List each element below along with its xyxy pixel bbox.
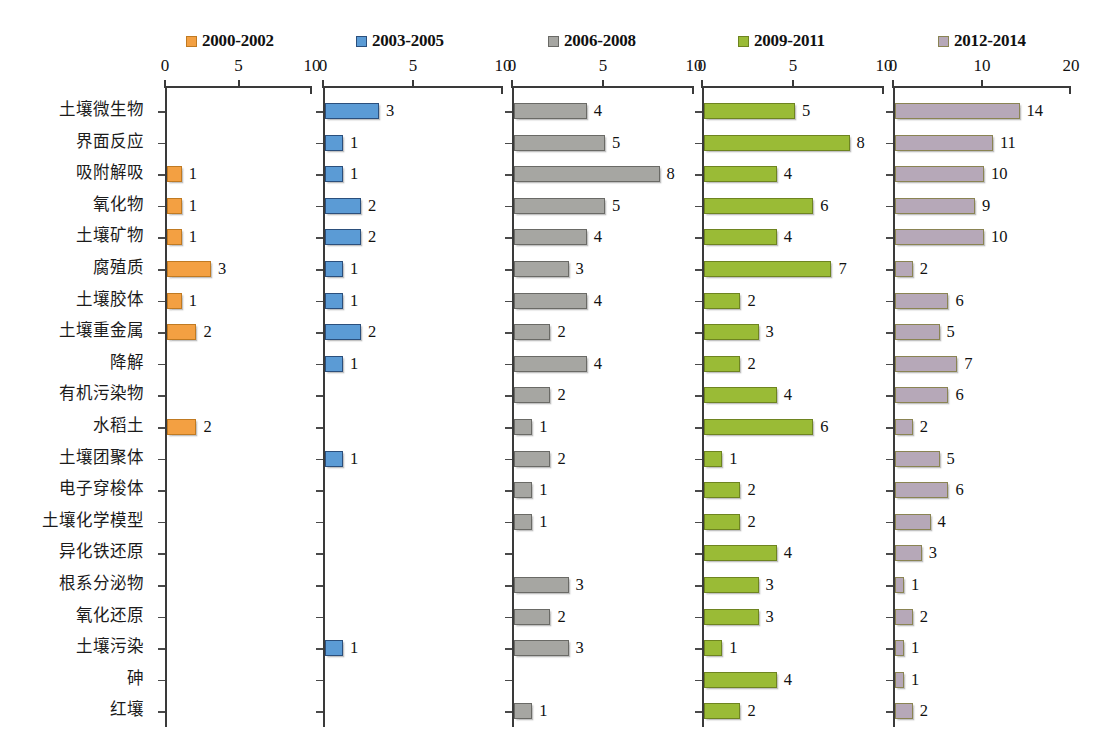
bar[interactable] — [704, 293, 740, 309]
bar-row: 2 — [704, 512, 886, 532]
bar[interactable] — [167, 261, 211, 277]
y-axis-tick — [505, 301, 512, 303]
bar[interactable] — [704, 577, 759, 593]
bar[interactable] — [704, 609, 759, 625]
legend-label: 2003-2005 — [372, 31, 444, 51]
bar[interactable] — [704, 135, 850, 151]
bar[interactable] — [167, 166, 182, 182]
bar[interactable] — [895, 545, 922, 561]
bar[interactable] — [325, 135, 343, 151]
bar[interactable] — [704, 672, 777, 688]
bar[interactable] — [704, 640, 722, 656]
bar[interactable] — [325, 198, 361, 214]
legend-item-2012-2014[interactable]: 2012-2014 — [938, 28, 1026, 54]
bar[interactable] — [895, 640, 904, 656]
bar[interactable] — [325, 103, 379, 119]
bar[interactable] — [895, 419, 913, 435]
bar[interactable] — [704, 545, 777, 561]
bar[interactable] — [704, 356, 740, 372]
bar[interactable] — [514, 577, 569, 593]
legend-item-2000-2002[interactable]: 2000-2002 — [186, 28, 274, 54]
bar[interactable] — [704, 703, 740, 719]
legend-item-2009-2011[interactable]: 2009-2011 — [738, 28, 825, 54]
y-axis-tick — [886, 301, 893, 303]
bar[interactable] — [514, 451, 550, 467]
bar[interactable] — [704, 229, 777, 245]
bar[interactable] — [895, 293, 948, 309]
bar-row: 4 — [514, 354, 696, 374]
bar[interactable] — [895, 482, 948, 498]
bar[interactable] — [895, 577, 904, 593]
bar[interactable] — [514, 482, 532, 498]
bar[interactable] — [167, 198, 182, 214]
bar-value-label: 2 — [747, 701, 755, 721]
bar[interactable] — [895, 703, 913, 719]
bar[interactable] — [704, 166, 777, 182]
bar[interactable] — [895, 356, 957, 372]
bar[interactable] — [895, 229, 984, 245]
bar[interactable] — [895, 387, 948, 403]
bar[interactable] — [895, 103, 1020, 119]
bar[interactable] — [514, 103, 587, 119]
bar[interactable] — [514, 356, 587, 372]
bar[interactable] — [514, 198, 605, 214]
bar[interactable] — [704, 514, 740, 530]
bar[interactable] — [895, 135, 993, 151]
bar[interactable] — [704, 261, 831, 277]
bar-row — [167, 701, 314, 721]
bar[interactable] — [895, 198, 975, 214]
x-tick-label: 5 — [599, 56, 608, 76]
bar[interactable] — [325, 261, 343, 277]
bar-value-label: 6 — [955, 385, 963, 405]
bar[interactable] — [514, 419, 532, 435]
bar[interactable] — [704, 451, 722, 467]
bar[interactable] — [704, 419, 813, 435]
bar[interactable] — [514, 324, 550, 340]
bar[interactable] — [895, 514, 931, 530]
bar[interactable] — [895, 166, 984, 182]
bar[interactable] — [704, 387, 777, 403]
bar[interactable] — [514, 293, 587, 309]
category-label: 腐殖质 — [93, 258, 144, 278]
bar[interactable] — [895, 609, 913, 625]
bar[interactable] — [514, 514, 532, 530]
bar[interactable] — [895, 324, 940, 340]
bar[interactable] — [514, 166, 660, 182]
y-axis-tick — [505, 364, 512, 366]
bar-value-label: 4 — [784, 227, 792, 247]
bar[interactable] — [895, 261, 913, 277]
bar[interactable] — [167, 293, 182, 309]
bar[interactable] — [325, 229, 361, 245]
legend-item-2003-2005[interactable]: 2003-2005 — [356, 28, 444, 54]
y-axis-tick — [695, 237, 702, 239]
bar-value-label: 4 — [784, 670, 792, 690]
bar[interactable] — [325, 451, 343, 467]
bar[interactable] — [514, 609, 550, 625]
bar-value-label: 1 — [911, 670, 919, 690]
bar[interactable] — [704, 103, 795, 119]
bar[interactable] — [167, 419, 196, 435]
bar[interactable] — [514, 703, 532, 719]
bar[interactable] — [325, 640, 343, 656]
bar[interactable] — [325, 324, 361, 340]
bar[interactable] — [704, 482, 740, 498]
bar[interactable] — [514, 261, 569, 277]
legend-item-2006-2008[interactable]: 2006-2008 — [548, 28, 636, 54]
bar[interactable] — [167, 229, 182, 245]
bar[interactable] — [325, 356, 343, 372]
bar-value-label: 6 — [820, 417, 828, 437]
bar[interactable] — [704, 198, 813, 214]
bar[interactable] — [895, 672, 904, 688]
bar[interactable] — [895, 451, 940, 467]
bar[interactable] — [704, 324, 759, 340]
bar[interactable] — [167, 324, 196, 340]
bar[interactable] — [325, 293, 343, 309]
category-label: 水稻土 — [93, 416, 144, 436]
bar[interactable] — [514, 387, 550, 403]
y-axis-tick — [886, 553, 893, 555]
bar[interactable] — [514, 135, 605, 151]
bar-row — [167, 607, 314, 627]
bar[interactable] — [514, 229, 587, 245]
bar[interactable] — [514, 640, 569, 656]
bar[interactable] — [325, 166, 343, 182]
